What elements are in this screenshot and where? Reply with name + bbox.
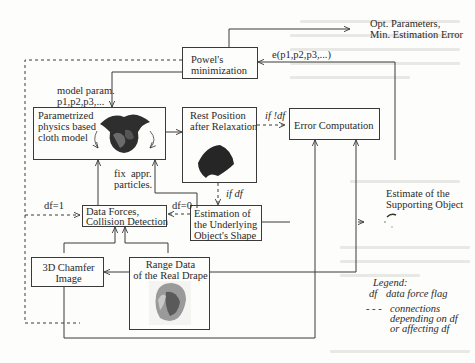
legend-title: Legend: xyxy=(373,277,407,288)
dataforces-label-2: Collision Detection xyxy=(86,216,168,227)
supporting-label-1: Estimate of the xyxy=(386,188,450,199)
node-data-forces: Data Forces, Collision Detection xyxy=(82,205,167,227)
node-rest-position: Rest Position after Relaxation xyxy=(182,107,257,183)
df1-label: df=1 xyxy=(44,200,64,211)
fix-particles-label-1: fix appr. xyxy=(114,168,152,179)
edge-range-to-dataforces xyxy=(125,227,168,253)
model-param-label-2: p1,p2,p3,... xyxy=(57,96,104,107)
chamfer-label-2: Image xyxy=(32,273,105,284)
estimation-label-2: the Underlying xyxy=(194,219,257,230)
df0-label: df=0 xyxy=(172,200,192,211)
cloth-label-1: Parametrized xyxy=(38,110,93,121)
edge-powell-to-output xyxy=(229,29,350,47)
estimation-label-1: Estimation of xyxy=(194,208,251,219)
rest-label-2: after Relaxation xyxy=(190,121,257,132)
rest-label-1: Rest Position xyxy=(190,110,246,121)
fix-particles-label-2: particles. xyxy=(114,179,152,190)
legend-dash-key: - - - xyxy=(366,303,382,314)
cloth-estimation-flow-diagram: Powel's minimization Parametrized physic… xyxy=(0,0,475,363)
node-chamfer-image: 3D Chamfer Image xyxy=(31,257,104,287)
output-label-2: Min. Estimation Error xyxy=(370,29,463,40)
node-cloth-model: Parametrized physics based cloth model xyxy=(33,107,166,160)
node-powell-minimization: Powel's minimization xyxy=(182,47,258,79)
chamfer-label-1: 3D Chamfer xyxy=(32,262,105,273)
legend-df-desc: data force flag xyxy=(386,288,447,299)
estimation-label-3: Object's Shape xyxy=(194,230,256,241)
node-range-data: Range Data of the Real Drape xyxy=(129,257,210,330)
cloth-label-2: physics based xyxy=(38,121,96,132)
supporting-label-2: Supporting Object xyxy=(386,199,463,210)
if-not-df-label: if !df xyxy=(265,110,285,121)
edge-chamfer-to-dataforces xyxy=(64,227,115,253)
powell-label-1: Powel's xyxy=(191,54,223,65)
error-function-label: e(p1,p2,p3,...) xyxy=(272,49,331,60)
model-param-label-1: model param. xyxy=(57,85,115,96)
supporting-object-image xyxy=(384,214,396,227)
range-label-2: of the Real Drape xyxy=(130,270,211,281)
if-df-label: if df xyxy=(226,188,243,199)
output-label-1: Opt. Parameters, xyxy=(370,18,440,29)
node-estimation-shape: Estimation of the Underlying Object's Sh… xyxy=(190,205,262,241)
legend-dash-desc-3: or affecting df xyxy=(390,323,450,334)
legend-df-key: df xyxy=(369,288,377,299)
error-label: Error Computation xyxy=(294,120,374,131)
powell-label-2: minimization xyxy=(191,65,247,76)
cloth-label-3: cloth model xyxy=(38,132,88,143)
node-error-computation: Error Computation xyxy=(289,108,380,140)
edge-powell-to-cloth xyxy=(112,72,182,107)
range-label-1: Range Data xyxy=(130,259,211,270)
